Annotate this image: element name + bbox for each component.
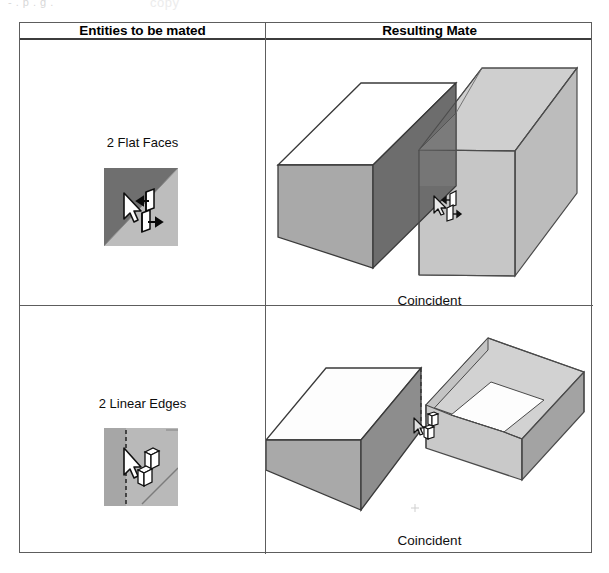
table-row-result: Coincident xyxy=(266,306,593,554)
page-top-scrap: - . p . g . copy xyxy=(0,0,609,10)
table-header-row: Entities to be mated Resulting Mate xyxy=(20,23,591,40)
column-header-resulting-mate: Resulting Mate xyxy=(266,23,593,38)
entity-label-flat-faces: 2 Flat Faces xyxy=(20,135,265,150)
table-row-result: Coincident xyxy=(266,40,593,305)
page-top-scrap-left: - . p . g . xyxy=(8,0,54,8)
two-linear-edges-icon xyxy=(104,428,178,506)
page-top-scrap-center: copy xyxy=(150,0,179,10)
mate-types-table: Entities to be mated Resulting Mate 2 Fl… xyxy=(19,22,592,553)
table-row: 2 Flat Faces xyxy=(20,40,265,305)
column-header-entities: Entities to be mated xyxy=(20,23,265,38)
two-flat-faces-icon xyxy=(104,168,178,246)
table-row: 2 Linear Edges xyxy=(20,306,265,554)
coincident-faces-figure xyxy=(266,46,593,286)
entity-label-linear-edges: 2 Linear Edges xyxy=(20,396,265,411)
coincident-edges-figure xyxy=(266,320,593,520)
mate-caption-coincident-edges: Coincident xyxy=(266,533,593,548)
